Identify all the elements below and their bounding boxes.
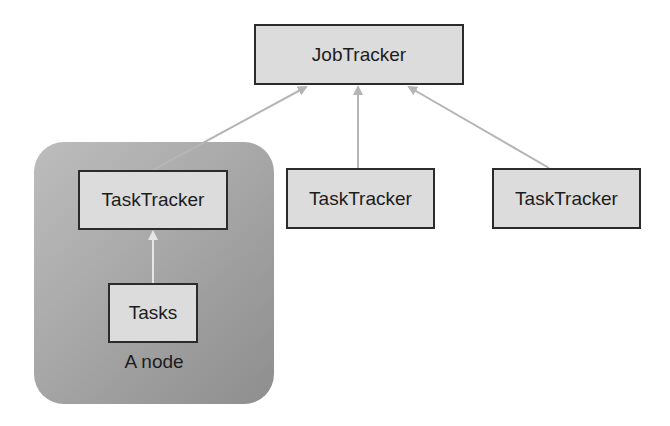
tasks-box: Tasks — [108, 283, 198, 343]
task-tracker-label: TaskTracker — [309, 188, 412, 210]
task-tracker-box-right: TaskTracker — [492, 168, 641, 229]
task-tracker-box-middle: TaskTracker — [286, 168, 435, 229]
tasks-label: Tasks — [129, 302, 178, 324]
task-tracker-label: TaskTracker — [102, 189, 205, 211]
task-tracker-label: TaskTracker — [515, 188, 618, 210]
node-label: A node — [34, 351, 274, 373]
task-tracker-box-node: TaskTracker — [78, 170, 228, 230]
job-tracker-label: JobTracker — [312, 44, 406, 66]
job-tracker-box: JobTracker — [254, 24, 464, 85]
arrow-node-tasktracker-to-jobtracker — [153, 87, 306, 170]
arrow-right-tasktracker-to-jobtracker — [409, 87, 549, 168]
